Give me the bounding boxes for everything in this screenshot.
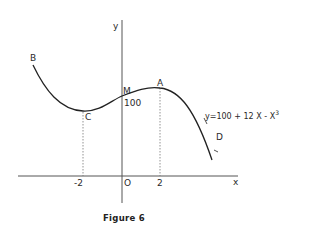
- point-label-A: A: [157, 79, 163, 88]
- tick-label-neg2: -2: [74, 179, 83, 188]
- point-label-M: M: [123, 87, 131, 96]
- figure-caption: Figure 6: [103, 213, 145, 223]
- y-intercept-label: 100: [124, 99, 141, 108]
- equation-label: y=100 + 12 X - X3: [205, 110, 279, 121]
- x-axis-label: x: [233, 178, 238, 187]
- origin-label: O: [124, 179, 131, 188]
- point-label-C: C: [85, 113, 91, 122]
- equation-exponent: 3: [275, 109, 279, 116]
- equation-base: y=100 + 12 X - X: [205, 112, 275, 121]
- y-axis-label: y: [113, 22, 118, 31]
- point-label-B: B: [30, 54, 36, 63]
- tick-label-pos2: 2: [157, 179, 163, 188]
- point-label-D: D: [216, 133, 223, 142]
- arrow-tick: [214, 150, 218, 152]
